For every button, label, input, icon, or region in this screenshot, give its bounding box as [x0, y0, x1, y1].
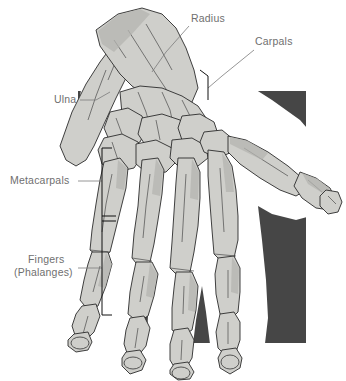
label-ulna: Ulna — [54, 93, 76, 105]
label-radius: Radius — [191, 12, 225, 24]
label-phalanges: (Phalanges) — [14, 266, 73, 278]
label-metacarpals: Metacarpals — [10, 174, 69, 186]
label-carpals: Carpals — [255, 35, 293, 47]
label-fingers: Fingers — [28, 253, 64, 265]
hand-skeleton-figure: Radius Carpals Ulna Metacarpals Fingers … — [0, 0, 346, 381]
